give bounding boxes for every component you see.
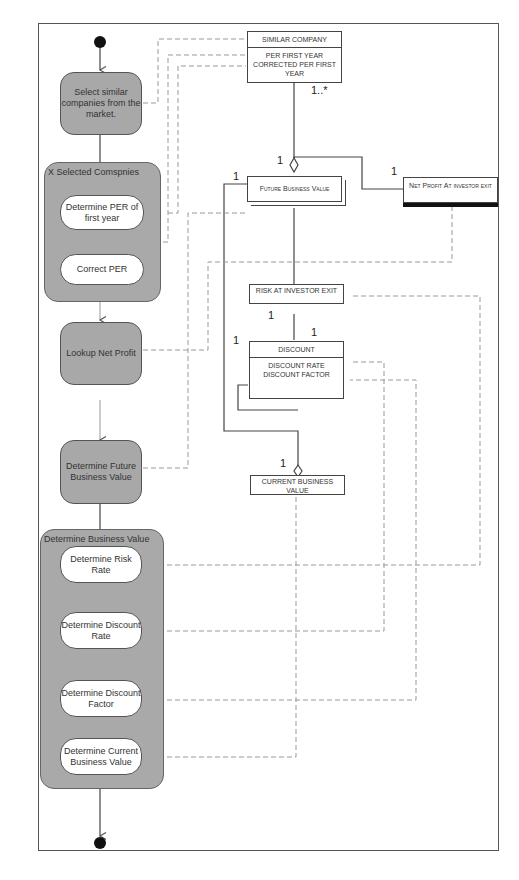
activity-determine-per[interactable]: Determine PER of first year xyxy=(60,195,144,230)
region-label: X Selected Comspnies xyxy=(48,167,139,177)
class-attributes: PER FIRST YEAR CORRECTED PER FIRST YEAR xyxy=(248,48,341,81)
class-risk-at-investor-exit[interactable]: RISK AT INVESTOR EXIT xyxy=(249,284,344,304)
class-name: SIMILAR COMPANY xyxy=(248,32,341,48)
class-similar-company[interactable]: SIMILAR COMPANY PER FIRST YEAR CORRECTED… xyxy=(247,31,342,83)
multiplicity-similar-many: 1..* xyxy=(311,84,328,96)
activity-correct-per[interactable]: Correct PER xyxy=(60,254,144,285)
activity-determine-risk-rate[interactable]: Determine Risk Rate xyxy=(60,546,142,583)
class-discount[interactable]: DISCOUNT DISCOUNT RATE DISCOUNT FACTOR xyxy=(249,341,344,399)
class-name: DISCOUNT xyxy=(250,342,343,358)
class-current-business-value[interactable]: CURRENT BUSINESS VALUE xyxy=(250,475,345,495)
activity-determine-discount-rate[interactable]: Determine Discount Rate xyxy=(60,612,142,649)
multiplicity-current-bv: 1 xyxy=(280,457,286,469)
activity-determine-future-business-value[interactable]: Determine Future Business Value xyxy=(60,440,142,504)
multiplicity-discount-left: 1 xyxy=(233,334,239,346)
multiplicity-fbv-left: 1 xyxy=(233,170,239,182)
multiplicity-discount-top: 1 xyxy=(311,326,317,338)
class-net-profit[interactable]: Net Profit At investor exit xyxy=(403,177,498,203)
activity-determine-discount-factor[interactable]: Determine Discount Factor xyxy=(60,680,142,717)
class-name: CURRENT BUSINESS VALUE xyxy=(251,476,344,496)
region-label: Determine Business Value xyxy=(44,534,149,544)
activity-lookup-net-profit[interactable]: Lookup Net Profit xyxy=(60,322,142,385)
class-name: RISK AT INVESTOR EXIT xyxy=(250,285,343,296)
class-name: Net Profit At investor exit xyxy=(404,178,497,193)
class-future-business-value[interactable]: Future Business Value xyxy=(247,176,342,202)
multiplicity-net-profit: 1 xyxy=(391,165,397,177)
activity-determine-current-business-value[interactable]: Determine Current Business Value xyxy=(60,738,142,775)
class-attributes: DISCOUNT RATE DISCOUNT FACTOR xyxy=(250,358,343,382)
multiplicity-risk: 1 xyxy=(268,309,274,321)
activity-select-similar-companies[interactable]: Select similar companies from the market… xyxy=(60,72,142,135)
multiplicity-fbv-top: 1 xyxy=(277,154,283,166)
class-name: Future Business Value xyxy=(248,177,341,196)
